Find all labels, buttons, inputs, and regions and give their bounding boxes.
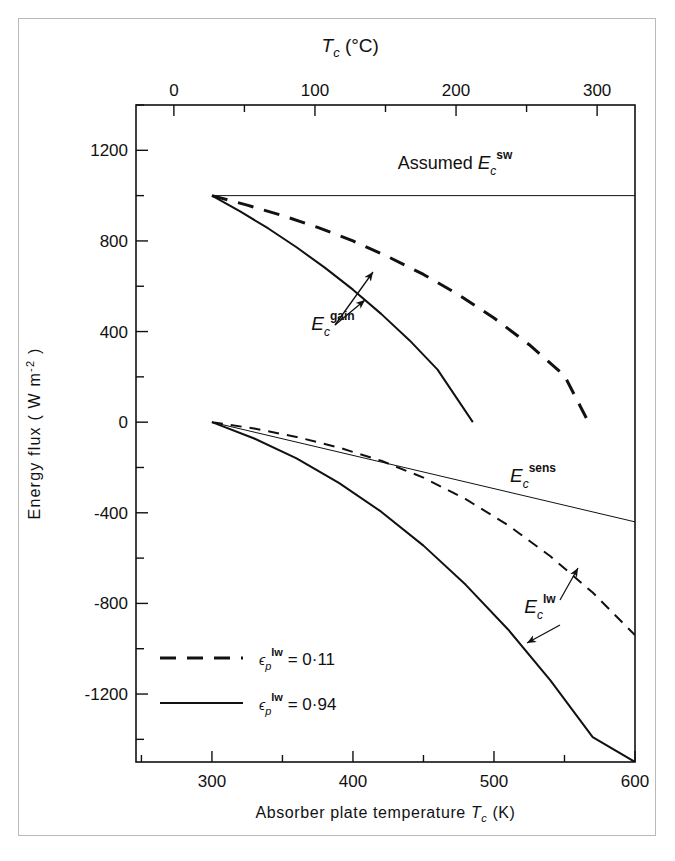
figure-container: 0100200300Tc (°C)300400500600Absorber pl… xyxy=(0,0,675,861)
plot-frame xyxy=(136,105,635,762)
annotation-assumed-sw: Assumed Ecsw xyxy=(398,148,513,178)
left-axis-tick-label: 0 xyxy=(119,413,128,432)
top-axis-tick-label: 200 xyxy=(442,81,470,100)
left-axis-tick-label: 800 xyxy=(100,232,128,251)
left-axis-tick-label: 1200 xyxy=(90,141,128,160)
bottom-axis-title: Absorber plate temperature Tc (K) xyxy=(255,804,515,824)
series-curve xyxy=(212,422,635,635)
series-curve xyxy=(212,422,635,762)
annotation-arrow xyxy=(527,625,560,643)
left-axis-tick-label: 400 xyxy=(100,323,128,342)
series-curve xyxy=(212,422,635,522)
legend-label-1: ϵplw = 0·94 xyxy=(259,691,336,717)
bottom-axis-tick-label: 400 xyxy=(339,772,367,791)
top-axis-tick-label: 300 xyxy=(583,81,611,100)
left-axis-tick-label: -1200 xyxy=(85,685,128,704)
annotation-sens: Ecsens xyxy=(510,461,556,491)
bottom-axis-tick-label: 500 xyxy=(480,772,508,791)
chart-canvas: 0100200300Tc (°C)300400500600Absorber pl… xyxy=(0,0,675,861)
annotation-gain: Ecgain xyxy=(311,309,354,339)
top-axis-tick-label: 0 xyxy=(169,81,178,100)
left-axis-tick-label: -400 xyxy=(94,504,128,523)
legend-label-0: ϵplw = 0·11 xyxy=(259,646,335,672)
top-axis-title: Tc (°C) xyxy=(322,35,379,60)
left-axis-tick-label: -800 xyxy=(94,594,128,613)
bottom-axis-tick-label: 300 xyxy=(198,772,226,791)
left-axis-title: Energy flux ( W m-2 ) xyxy=(24,348,43,520)
annotation-arrow xyxy=(560,568,578,600)
top-axis-tick-label: 100 xyxy=(301,81,329,100)
annotation-lw: Eclw xyxy=(524,592,556,622)
bottom-axis-tick-label: 600 xyxy=(621,772,649,791)
